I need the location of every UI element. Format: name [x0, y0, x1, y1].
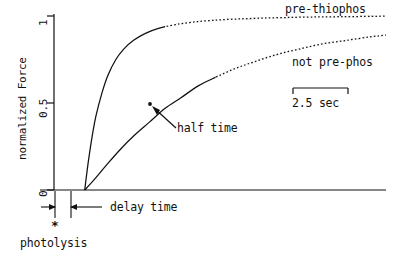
- y-axis-title: normalized Force: [16, 57, 29, 160]
- curve-label-not-pre-phos: not pre-phos: [292, 55, 373, 69]
- y-tick-label-1: 1: [37, 20, 50, 26]
- half-time-label: half time: [177, 121, 238, 135]
- scale-bar-label: 2.5 sec: [292, 96, 339, 110]
- curves-group: [85, 16, 386, 190]
- delay-time-label: delay time: [110, 200, 177, 214]
- y-tick-label-0: 0: [37, 191, 50, 197]
- y-tick-label-0point5: 0.5: [37, 99, 50, 118]
- scale-bar-group: [293, 88, 348, 94]
- curve-label-pre-thiophos: pre-thiophos: [285, 2, 366, 16]
- photolysis-label: photolysis: [20, 236, 87, 250]
- half-time-annotation-group: [148, 102, 176, 128]
- half-time-marker-dot: [148, 102, 152, 106]
- photolysis-marker: *: [51, 219, 59, 232]
- figure-panel: normalized Force 1 0.5 0 pre-thiophos no…: [0, 0, 401, 258]
- delay-time-annotation-group: [41, 191, 102, 218]
